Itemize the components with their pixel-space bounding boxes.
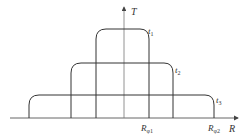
r-axis-label: R bbox=[228, 123, 235, 134]
marker-label-rphi2: Rφ2 bbox=[207, 123, 220, 134]
curve-t2 bbox=[71, 63, 173, 118]
marker-label-rphi1: Rφ1 bbox=[140, 123, 153, 134]
curve-label-t2: t2 bbox=[175, 65, 181, 76]
diagram-canvas: T R t1 t2 t3 Rφ1 Rφ2 bbox=[0, 0, 243, 140]
curve-label-t3: t3 bbox=[216, 95, 222, 106]
curve-t1 bbox=[96, 29, 149, 118]
curve-label-t1: t1 bbox=[148, 26, 154, 37]
curve-t3 bbox=[29, 95, 214, 118]
t-axis-label: T bbox=[131, 6, 138, 17]
